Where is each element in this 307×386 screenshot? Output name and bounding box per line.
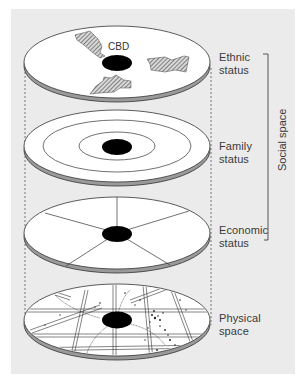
cbd-label: CBD [108, 41, 129, 52]
cbd-marker [102, 226, 132, 242]
layer-label-physical: Physical space [219, 312, 261, 338]
layered-city-diagram [0, 0, 307, 386]
disc-ethnic-status [24, 26, 210, 102]
layer-label-economic: Economic status [219, 224, 268, 250]
cbd-marker [102, 55, 132, 71]
layer-label-family: Family status [219, 140, 252, 166]
disc-family-status [24, 110, 210, 186]
disc-economic-status [24, 197, 210, 273]
social-space-bracket [263, 54, 268, 240]
layer-label-ethnic: Ethnic status [219, 51, 250, 77]
ethnic-cluster-2 [147, 56, 189, 72]
social-space-label: Social space [276, 109, 288, 171]
cbd-marker [102, 139, 132, 155]
disc-physical-space [20, 284, 210, 360]
cbd-marker [102, 312, 132, 329]
